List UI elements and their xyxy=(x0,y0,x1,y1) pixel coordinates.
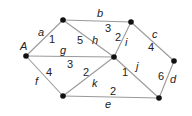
edge-weight-b: 3 xyxy=(105,22,111,34)
edge-weight-e: 2 xyxy=(110,85,116,97)
node-top-right xyxy=(128,19,134,25)
edge-label-a: a xyxy=(38,26,44,38)
node-center xyxy=(111,54,117,60)
node-bottom-left xyxy=(60,93,66,99)
node-right xyxy=(171,58,177,64)
edge-label-b: b xyxy=(97,7,103,19)
edge-f xyxy=(26,56,63,96)
edge-label-c: c xyxy=(152,28,158,40)
edge-b xyxy=(63,20,131,22)
edge-weight-a: 1 xyxy=(49,33,55,45)
edge-label-k: k xyxy=(92,77,98,89)
edge-weight-k: 2 xyxy=(83,66,89,78)
edge-weight-d: 6 xyxy=(158,70,164,82)
edge-weight-f: 4 xyxy=(46,66,52,78)
edge-weight-j: 1 xyxy=(122,66,128,78)
edge-label-h: h xyxy=(92,34,98,46)
edge-weight-i: 2 xyxy=(115,31,121,43)
edge-label-g: g xyxy=(60,44,67,56)
graph-diagram: A a 1 b 3 c 4 d 6 e 2 f 4 g 3 h 5 i 2 j … xyxy=(0,0,192,116)
edge-weight-h: 5 xyxy=(77,34,83,46)
edge-label-e: e xyxy=(105,98,111,110)
edge-a xyxy=(26,20,63,56)
edge-label-d: d xyxy=(170,73,177,85)
node-top-left xyxy=(60,17,66,23)
edge-weight-c: 4 xyxy=(148,41,154,53)
edge-label-j: j xyxy=(134,60,139,72)
edge-label-f: f xyxy=(35,75,39,87)
edge-weight-g: 3 xyxy=(67,58,73,70)
edge-label-i: i xyxy=(125,36,128,48)
node-A xyxy=(23,53,29,59)
node-label-A: A xyxy=(19,40,27,52)
edge-g xyxy=(26,56,114,57)
node-bottom-right xyxy=(156,95,162,101)
